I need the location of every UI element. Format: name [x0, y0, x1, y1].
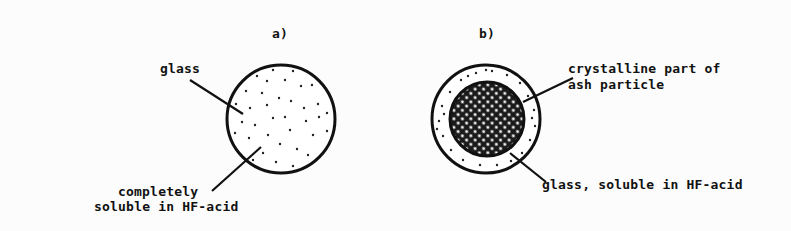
label-glass-a: glass: [160, 62, 200, 76]
particle-a: [190, 65, 335, 191]
label-soluble-a-line1: completely: [118, 185, 198, 199]
label-soluble-a-line2: soluble in HF-acid: [94, 200, 238, 214]
diagram-figure: a) glass completely soluble in HF-acid b…: [0, 0, 791, 231]
crystalline-core: [450, 82, 524, 156]
leader-glass-b: [510, 153, 546, 182]
panel-b-title: b): [479, 27, 495, 41]
label-glass-b: glass, soluble in HF-acid: [542, 178, 743, 192]
label-crystalline-b-line1: crystalline part of: [568, 62, 721, 76]
panel-a-title: a): [272, 27, 288, 41]
leader-soluble-a: [212, 147, 261, 191]
particle-b: [432, 65, 573, 182]
label-crystalline-b-line2: ash particle: [568, 78, 664, 92]
